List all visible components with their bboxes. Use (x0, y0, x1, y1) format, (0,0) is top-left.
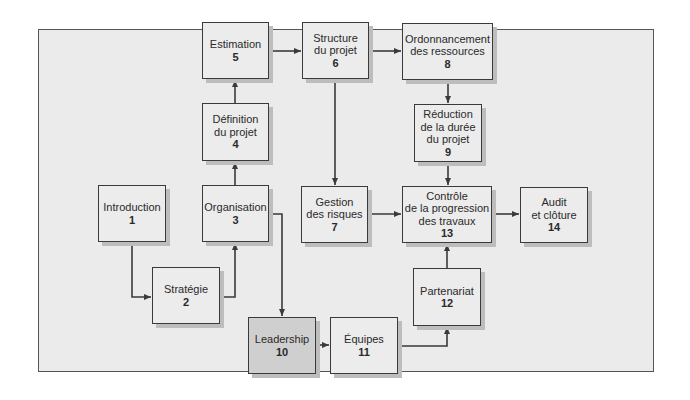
node-label: Estimation (210, 38, 261, 51)
node-number: 3 (232, 214, 238, 227)
node-14: Auditet clôture14 (520, 187, 588, 243)
node-label: Leadership (255, 333, 309, 346)
node-7: Gestiondes risques7 (301, 186, 368, 243)
node-number: 14 (548, 221, 560, 234)
node-label: Introduction (103, 201, 160, 214)
node-number: 7 (331, 221, 337, 234)
node-3: Organisation3 (202, 185, 269, 242)
node-label: des risques (306, 208, 362, 221)
node-label: des travaux (419, 215, 476, 228)
node-number: 5 (232, 51, 238, 64)
node-5: Estimation5 (202, 22, 269, 79)
node-number: 4 (232, 138, 238, 151)
node-number: 8 (444, 58, 450, 71)
node-number: 2 (183, 296, 189, 309)
node-number: 13 (441, 227, 453, 240)
node-10: Leadership10 (248, 317, 316, 374)
node-13: Contrôlede la progressiondes travaux13 (402, 186, 492, 243)
node-1: Introduction1 (98, 185, 166, 242)
node-4: Définitiondu projet4 (202, 103, 269, 161)
node-label: de la durée (420, 121, 475, 134)
node-label: Réduction (423, 108, 473, 121)
node-label: Partenariat (420, 285, 474, 298)
node-label: de la progression (405, 202, 489, 215)
node-label: du projet (427, 133, 470, 146)
node-label: du projet (214, 126, 257, 139)
node-label: Organisation (204, 201, 266, 214)
node-label: des ressources (410, 45, 485, 58)
node-number: 10 (276, 346, 288, 359)
node-12: Partenariat12 (413, 268, 481, 326)
node-label: Équipes (344, 333, 384, 346)
node-number: 1 (129, 214, 135, 227)
node-label: Gestion (316, 196, 354, 209)
node-label: du projet (314, 44, 357, 57)
node-number: 12 (441, 297, 453, 310)
node-label: Audit (541, 196, 566, 209)
node-number: 6 (332, 57, 338, 70)
node-8: Ordonnancementdes ressources8 (402, 23, 493, 80)
node-number: 9 (445, 146, 451, 159)
node-label: Définition (213, 113, 259, 126)
node-label: et clôture (531, 209, 576, 222)
node-number: 11 (358, 346, 370, 359)
node-label: Structure (313, 32, 358, 45)
node-label: Stratégie (164, 283, 208, 296)
node-label: Contrôle (426, 190, 468, 203)
node-6: Structuredu projet6 (302, 22, 369, 79)
node-label: Ordonnancement (405, 33, 490, 46)
node-9: Réductionde la duréedu projet9 (414, 104, 482, 162)
node-2: Stratégie2 (152, 267, 220, 324)
node-11: Équipes11 (330, 317, 398, 374)
